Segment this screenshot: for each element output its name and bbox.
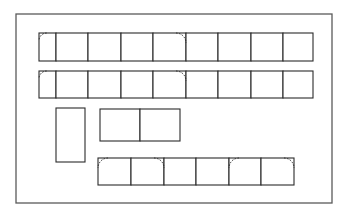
- double-block: [100, 109, 180, 141]
- cell: [88, 33, 121, 61]
- cell: [153, 71, 186, 98]
- cell: [56, 108, 85, 162]
- row-1: [39, 33, 313, 61]
- cell: [261, 158, 294, 185]
- cell: [39, 71, 56, 98]
- cell: [251, 71, 283, 98]
- cell: [98, 158, 131, 185]
- floor-plan-diagram: [0, 0, 347, 211]
- cell: [229, 158, 261, 185]
- tall-block: [56, 108, 85, 162]
- cell: [251, 33, 283, 61]
- cell: [56, 71, 88, 98]
- cell: [56, 33, 88, 61]
- cell: [283, 33, 313, 61]
- cell: [121, 71, 153, 98]
- row-2: [39, 71, 313, 98]
- cell: [88, 71, 121, 98]
- cell: [196, 158, 229, 185]
- cell: [218, 33, 251, 61]
- row-bottom: [98, 158, 294, 185]
- cell: [283, 71, 313, 98]
- cell: [218, 71, 251, 98]
- cell: [186, 71, 218, 98]
- cell: [140, 109, 180, 141]
- cell: [131, 158, 164, 185]
- cell-rows: [39, 33, 313, 185]
- cell: [121, 33, 153, 61]
- cell: [100, 109, 140, 141]
- cell: [186, 33, 218, 61]
- cell: [39, 33, 56, 61]
- cell: [153, 33, 186, 61]
- cell: [164, 158, 196, 185]
